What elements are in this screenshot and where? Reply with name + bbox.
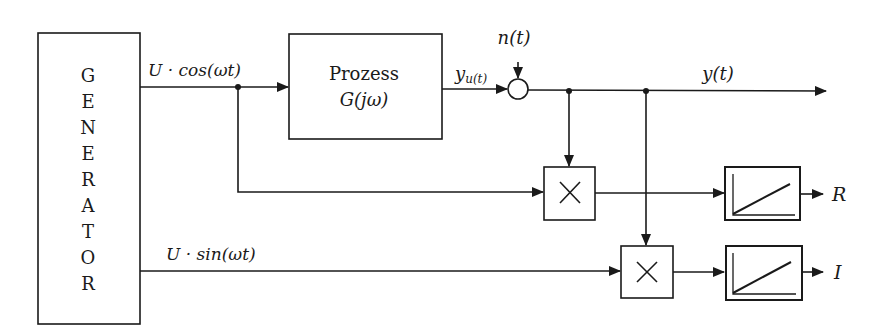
- generator-label: G E N E R A T O R: [80, 65, 96, 294]
- summing-junction: [508, 79, 528, 99]
- R-label: R: [831, 183, 846, 205]
- cos-signal-label: U · cos(ωt): [148, 60, 241, 80]
- process-transfer-function: G(jω): [340, 89, 389, 110]
- svg-text:N: N: [80, 117, 96, 138]
- svg-text:G: G: [81, 65, 95, 86]
- svg-text:E: E: [81, 143, 94, 164]
- junction-dot-cos: [235, 84, 241, 90]
- yu-label: yu(t): [454, 63, 487, 86]
- integrator-2: [726, 246, 802, 300]
- process-title: Prozess: [329, 63, 399, 84]
- svg-text:O: O: [81, 247, 96, 268]
- output-line: [528, 90, 826, 91]
- svg-text:E: E: [81, 91, 94, 112]
- junction-dot-y2: [643, 88, 649, 94]
- output-label: y(t): [701, 63, 733, 84]
- svg-text:A: A: [81, 195, 96, 216]
- svg-text:T: T: [82, 221, 94, 242]
- sin-signal-label: U · sin(ωt): [166, 244, 256, 264]
- block-diagram: G E N E R A T O R Prozess G(jω) U · cos(…: [0, 0, 883, 335]
- process-block: [289, 34, 442, 139]
- noise-label: n(t): [498, 27, 531, 48]
- junction-dot-y1: [566, 88, 572, 94]
- svg-text:R: R: [81, 273, 95, 294]
- I-label: I: [833, 261, 842, 283]
- svg-text:R: R: [81, 169, 95, 190]
- diagram-canvas: G E N E R A T O R Prozess G(jω) U · cos(…: [0, 0, 883, 335]
